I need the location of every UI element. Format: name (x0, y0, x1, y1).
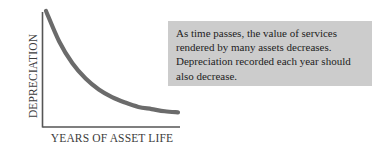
callout-text-line: Depreciation recorded each year should (176, 54, 372, 68)
callout-text-line: As time passes, the value of services (176, 26, 372, 40)
annotation-callout-box: As time passes, the value of services re… (168, 21, 372, 86)
y-axis-label: DEPRECIATION (27, 21, 39, 131)
x-axis-label: YEARS OF ASSET LIFE (42, 132, 182, 144)
callout-text-line: rendered by many assets decreases. (176, 40, 372, 54)
screenshot-root: DEPRECIATION YEARS OF ASSET LIFE As time… (0, 0, 388, 156)
callout-text-line: also decrease. (176, 69, 372, 83)
depreciation-curve (46, 11, 178, 112)
depreciation-chart: DEPRECIATION YEARS OF ASSET LIFE (0, 0, 195, 156)
